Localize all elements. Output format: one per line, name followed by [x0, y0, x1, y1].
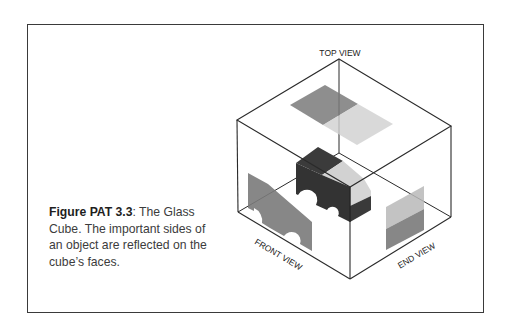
glass-cube-diagram: TOP VIEW FRONT VIEW END VIEW: [0, 0, 506, 327]
end-view-projection: [386, 186, 424, 250]
front-view-label: FRONT VIEW: [253, 237, 304, 273]
top-view-label: TOP VIEW: [319, 48, 360, 58]
end-view-label: END VIEW: [396, 240, 437, 270]
object-block: [296, 147, 371, 222]
top-view-projection: [290, 85, 393, 145]
